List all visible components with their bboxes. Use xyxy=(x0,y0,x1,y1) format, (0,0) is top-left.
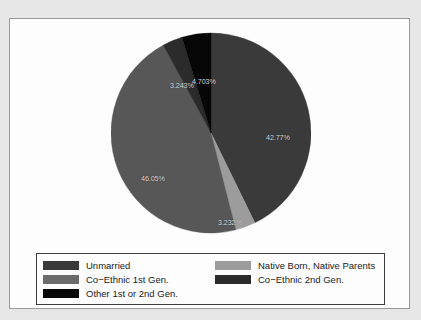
pie-chart-screenshot: 42.77% 3.232% 46.05% 3.243% 4.703% Unmar… xyxy=(0,0,421,320)
slice-label-native-born: 3.232% xyxy=(218,218,242,227)
legend-item-label: Native Born, Native Parents xyxy=(258,260,375,271)
slice-label-unmarried: 42.77% xyxy=(266,133,290,142)
legend-item[interactable]: Other 1st or 2nd Gen. xyxy=(43,286,207,300)
legend-item[interactable]: Co−Ethnic 1st Gen. xyxy=(43,272,207,286)
legend-item-label: Other 1st or 2nd Gen. xyxy=(86,288,178,299)
legend-item[interactable]: Native Born, Native Parents xyxy=(215,258,379,272)
legend-color-swatch xyxy=(215,261,251,270)
legend-item-label: Co−Ethnic 1st Gen. xyxy=(86,274,169,285)
legend-item[interactable]: Unmarried xyxy=(43,258,207,272)
slice-label-other-gen: 4.703% xyxy=(192,77,216,86)
legend-color-swatch xyxy=(43,275,79,284)
legend-color-swatch xyxy=(43,289,79,298)
slice-label-coethnic-2nd-gen: 3.243% xyxy=(170,81,194,90)
legend-item-label: Unmarried xyxy=(86,260,130,271)
legend-item-label: Co−Ethnic 2nd Gen. xyxy=(258,274,344,285)
chart-panel: 42.77% 3.232% 46.05% 3.243% 4.703% Unmar… xyxy=(9,18,410,309)
legend-grid: UnmarriedCo−Ethnic 1st Gen.Other 1st or … xyxy=(43,258,379,300)
chart-legend: UnmarriedCo−Ethnic 1st Gen.Other 1st or … xyxy=(36,253,385,305)
legend-color-swatch xyxy=(215,275,251,284)
pie-plot-area: 42.77% 3.232% 46.05% 3.243% 4.703% xyxy=(10,19,411,247)
slice-label-coethnic-1st-gen: 46.05% xyxy=(141,174,165,183)
legend-color-swatch xyxy=(43,261,79,270)
legend-item[interactable]: Co−Ethnic 2nd Gen. xyxy=(215,272,379,286)
